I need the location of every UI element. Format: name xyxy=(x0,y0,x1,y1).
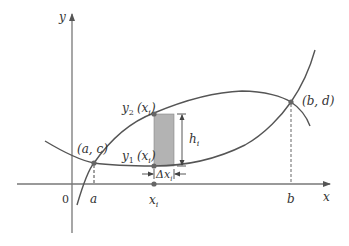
point-xi-axis xyxy=(151,181,156,186)
tick-label-xi: xi xyxy=(149,193,159,209)
tick-label-a: a xyxy=(90,192,97,206)
label-a-c: (a, c) xyxy=(77,142,108,156)
area-between-curves-diagram: y x 0 a b xi (a, c) (b, d) y2(xi) y1(xi)… xyxy=(0,0,349,246)
label-b-d: (b, d) xyxy=(302,94,335,108)
point-a-c xyxy=(91,160,96,165)
origin-label: 0 xyxy=(62,193,69,206)
label-y1-xi: y1(xi) xyxy=(121,149,156,165)
point-b-d xyxy=(288,99,293,104)
representative-rectangle xyxy=(154,114,174,166)
curve-y2-upper xyxy=(77,91,310,205)
x-axis-label: x xyxy=(323,190,330,204)
tick-label-b: b xyxy=(287,192,295,206)
y-axis-label: y xyxy=(58,10,66,24)
label-y2-xi: y2(xi) xyxy=(121,101,156,117)
label-hi: hi xyxy=(189,132,200,148)
label-delta-xi: Δxi xyxy=(155,168,172,183)
